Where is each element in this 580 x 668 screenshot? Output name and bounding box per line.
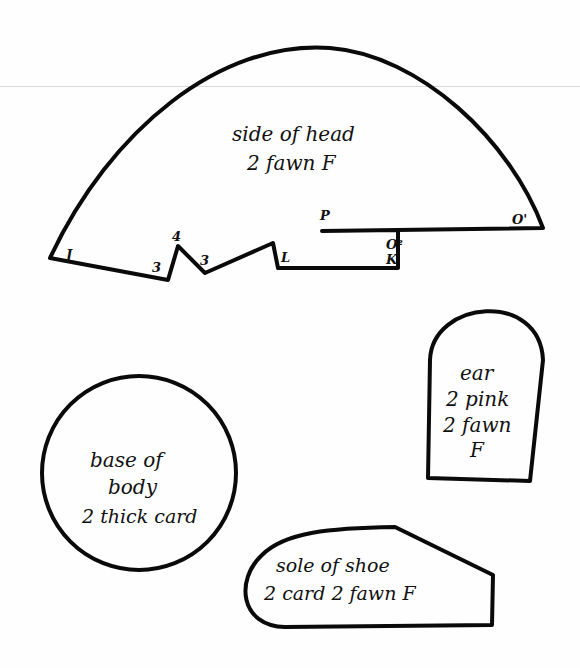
- mark-k: K: [385, 252, 398, 267]
- sole-of-shoe-piece: sole of shoe 2 card 2 fawn F: [245, 527, 493, 627]
- sole-of-shoe-instruction: 2 card 2 fawn F: [263, 582, 416, 604]
- side-of-head-piece: side of head 2 fawn F J 3 4 3 L P O' O² …: [50, 48, 543, 280]
- pattern-pieces-canvas: side of head 2 fawn F J 3 4 3 L P O' O² …: [0, 0, 580, 668]
- ear-line-2: 2 pink: [445, 387, 509, 411]
- mark-4: 4: [172, 229, 181, 244]
- base-of-body-line-3: 2 thick card: [81, 505, 197, 527]
- mark-o2: O²: [386, 237, 403, 252]
- sole-of-shoe-title: sole of shoe: [276, 554, 390, 576]
- side-of-head-instruction: 2 fawn F: [246, 151, 337, 175]
- base-of-body-outline: [42, 376, 236, 570]
- side-of-head-title: side of head: [232, 122, 355, 146]
- mark-p: P: [319, 208, 331, 223]
- ear-line-3: 2 fawn: [442, 413, 511, 437]
- base-of-body-line-2: body: [108, 475, 158, 499]
- ear-title: ear: [460, 361, 495, 385]
- sole-of-shoe-outline: [245, 527, 493, 627]
- pattern-sheet: side of head 2 fawn F J 3 4 3 L P O' O² …: [0, 0, 580, 668]
- base-of-body-piece: base of body 2 thick card: [42, 376, 236, 570]
- mark-o1: O': [512, 212, 527, 227]
- mark-l: L: [280, 250, 290, 265]
- ear-line-4: F: [469, 438, 485, 462]
- mark-3-left: 3: [152, 260, 161, 275]
- base-of-body-line-1: base of: [90, 448, 166, 472]
- mark-3-right: 3: [200, 253, 209, 268]
- ear-piece: ear 2 pink 2 fawn F: [428, 311, 543, 481]
